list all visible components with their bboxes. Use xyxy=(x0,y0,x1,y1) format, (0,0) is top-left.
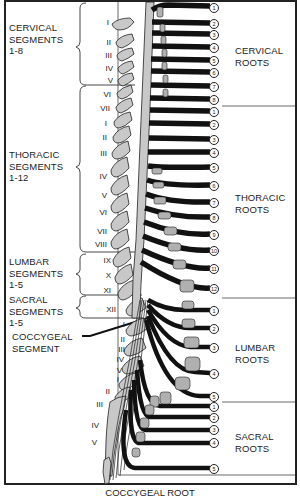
numeral-l5: V xyxy=(100,366,122,375)
root-c1: 1 xyxy=(209,3,219,13)
numeral-t12: XII xyxy=(94,305,116,314)
label-lumbar-roots: LUMBAR ROOTS xyxy=(235,342,275,365)
spinal-cord-diagram xyxy=(0,0,300,499)
numeral-t5: V xyxy=(85,191,107,200)
root-s4: 4 xyxy=(209,438,219,448)
label-cervical-segments: CERVICAL SEGMENTS 1-8 xyxy=(9,22,63,57)
numeral-c2: II xyxy=(89,38,111,47)
numeral-s5: V xyxy=(75,438,97,447)
label-thoracic-segments: THORACIC SEGMENTS 1-12 xyxy=(9,149,63,184)
root-t10: 10 xyxy=(209,246,219,256)
numeral-t9: IX xyxy=(89,256,111,265)
root-t11: 11 xyxy=(209,264,219,274)
numeral-t11: XI xyxy=(89,286,111,295)
root-t4: 4 xyxy=(209,148,219,158)
numeral-s1: I xyxy=(97,375,119,384)
root-t6: 6 xyxy=(209,181,219,191)
numeral-l1: I xyxy=(103,320,125,329)
numeral-t1: I xyxy=(85,119,107,128)
label-thoracic-roots: THORACIC ROOTS xyxy=(235,192,285,215)
label-cervical-roots: CERVICAL ROOTS xyxy=(235,45,283,68)
numeral-c5: V xyxy=(91,76,113,85)
root-c2: 2 xyxy=(209,19,219,29)
root-l2: 2 xyxy=(209,324,219,334)
root-t2: 2 xyxy=(209,120,219,130)
numeral-t4: IV xyxy=(85,172,107,181)
numeral-c4: IV xyxy=(91,64,113,73)
numeral-t10: X xyxy=(89,271,111,280)
root-l1: 1 xyxy=(209,306,219,316)
root-t12: 12 xyxy=(209,284,219,294)
numeral-t6: VI xyxy=(85,208,107,217)
root-c4: 4 xyxy=(209,43,219,53)
label-lumbar-segments: LUMBAR SEGMENTS 1-5 xyxy=(9,256,63,291)
numeral-s2: II xyxy=(88,387,110,396)
numeral-c6: VI xyxy=(89,90,111,99)
numeral-l3: III xyxy=(103,345,125,354)
numeral-t3: III xyxy=(85,149,107,158)
root-t8: 8 xyxy=(209,213,219,223)
root-c5: 5 xyxy=(209,56,219,66)
root-l4: 4 xyxy=(209,369,219,379)
root-s3: 3 xyxy=(209,425,219,435)
root-l5: 5 xyxy=(209,392,219,402)
root-s2: 2 xyxy=(209,413,219,423)
root-c6: 6 xyxy=(209,68,219,78)
numeral-c3: III xyxy=(90,51,112,60)
numeral-c7: VII xyxy=(88,104,110,113)
root-t3: 3 xyxy=(209,135,219,145)
root-t7: 7 xyxy=(209,198,219,208)
numeral-t2: II xyxy=(85,133,107,142)
root-c3: 3 xyxy=(209,30,219,40)
label-sacral-roots: SACRAL ROOTS xyxy=(235,431,274,454)
numeral-s4: IV xyxy=(77,421,99,430)
caption-coccygeal-root: COCCYGEAL ROOT xyxy=(0,487,300,498)
label-sacral-segments: SACRAL SEGMENTS 1-5 xyxy=(9,294,63,329)
numeral-t8: VIII xyxy=(85,240,107,249)
root-t9: 9 xyxy=(209,230,219,240)
root-t5: 5 xyxy=(209,163,219,173)
root-c7: 7 xyxy=(209,82,219,92)
root-t1: 1 xyxy=(209,107,219,117)
numeral-s3: III xyxy=(81,400,103,409)
root-s5: 5 xyxy=(209,464,219,474)
label-coccygeal-segment: COCCYGEAL SEGMENT xyxy=(12,331,73,354)
numeral-l2: II xyxy=(103,335,125,344)
numeral-c1: I xyxy=(87,18,109,27)
numeral-t7: VII xyxy=(85,227,107,236)
numeral-l4: IV xyxy=(102,355,124,364)
root-c8: 8 xyxy=(209,95,219,105)
root-l3: 3 xyxy=(209,343,219,353)
root-s1: 1 xyxy=(209,402,219,412)
